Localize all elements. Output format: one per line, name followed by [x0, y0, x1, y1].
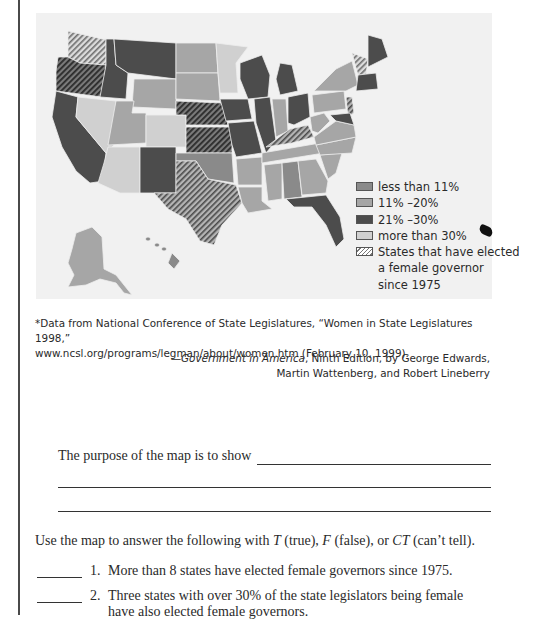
state-nd [176, 43, 218, 73]
state-hi-3 [162, 247, 167, 251]
page-margin-bar [18, 0, 20, 615]
question-number: 2. [90, 588, 108, 620]
legend-swatch-less-than-11 [356, 182, 373, 191]
state-hi-1 [146, 237, 151, 241]
state-wy [132, 79, 176, 109]
credit-line-1: —Government in America, Ninth Edition, b… [171, 351, 490, 366]
question-1: 1. More than 8 states have elected femal… [37, 563, 478, 579]
purpose-answer-line-2[interactable] [58, 487, 491, 488]
legend-swatch-11-20 [356, 198, 373, 207]
legend-item-female-governor: States that have elected a female govern… [356, 244, 520, 293]
state-wi [240, 55, 270, 99]
state-ia [220, 99, 252, 121]
legend-label: more than 30% [378, 228, 467, 244]
state-ma [356, 73, 378, 91]
state-hi-4 [168, 253, 180, 269]
legend-swatch-21-30 [356, 215, 373, 224]
legend-label: less than 11% [378, 179, 459, 195]
legend-item-less-than-11: less than 11% [356, 179, 520, 195]
state-ms [264, 163, 282, 201]
book-title: Government in America [181, 352, 305, 364]
question-text: More than 8 states have elected female g… [108, 563, 478, 579]
state-ar [236, 157, 262, 185]
state-sd [176, 73, 220, 101]
state-co [146, 115, 186, 147]
state-ks [186, 127, 232, 153]
legend-label: 21% –30% [378, 212, 439, 228]
legend-item-21-30: 21% –30% [356, 212, 520, 228]
question-text: Three states with over 30% of the state … [108, 588, 478, 620]
state-fa [286, 195, 344, 247]
state-ny [314, 61, 358, 91]
source-line-1: *Data from National Conference of State … [35, 316, 505, 346]
book-credit: —Government in America, Ninth Edition, b… [171, 351, 490, 381]
question-number: 1. [90, 563, 108, 579]
state-ak [68, 227, 132, 295]
credit-line-2: Martin Wattenberg, and Robert Lineberry [171, 366, 490, 381]
legend-item-more-than-30: more than 30% [356, 228, 520, 244]
purpose-prompt: The purpose of the map is to show [58, 448, 251, 464]
legend-item-11-20: 11% –20% [356, 195, 520, 211]
state-me [368, 35, 388, 67]
answer-blank-1[interactable] [37, 577, 82, 578]
state-mi [276, 63, 298, 95]
purpose-answer-line-1[interactable] [257, 464, 491, 465]
question-2: 2. Three states with over 30% of the sta… [37, 588, 478, 620]
state-pa [312, 91, 346, 113]
state-oh [288, 93, 310, 125]
state-hi-2 [155, 243, 160, 247]
map-legend: less than 11% 11% –20% 21% –30% more tha… [356, 179, 520, 293]
legend-label: States that have elected a female govern… [378, 244, 520, 293]
tf-instructions: Use the map to answer the following with… [35, 533, 475, 549]
answer-blank-2[interactable] [37, 602, 82, 603]
legend-label: 11% –20% [378, 195, 439, 211]
legend-swatch-hatch [356, 247, 373, 256]
purpose-answer-line-3[interactable] [58, 511, 491, 512]
legend-swatch-more-than-30 [356, 231, 373, 240]
state-nm [140, 147, 176, 193]
